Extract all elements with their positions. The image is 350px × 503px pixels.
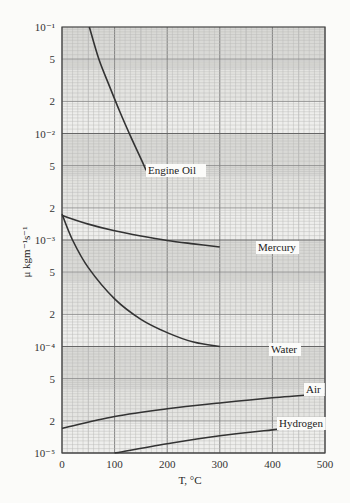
svg-text:Engine Oil: Engine Oil bbox=[148, 164, 196, 176]
y-tick-label: 5 bbox=[50, 266, 56, 278]
x-tick-label: 500 bbox=[317, 458, 334, 470]
svg-text:Water: Water bbox=[271, 343, 297, 355]
x-axis-ticks: 0100200300400500 bbox=[59, 458, 334, 470]
y-tick-label: 2 bbox=[50, 308, 56, 320]
y-axis-label: μ kgm⁻¹s⁻¹ bbox=[20, 226, 32, 277]
y-tick-label: 5 bbox=[50, 53, 56, 65]
y-tick-label: 10⁻⁴ bbox=[34, 341, 55, 353]
label-engine-oil: Engine Oil bbox=[146, 164, 206, 177]
label-mercury: Mercury bbox=[256, 241, 299, 254]
svg-text:Hydrogen: Hydrogen bbox=[279, 417, 323, 429]
y-tick-label: 2 bbox=[50, 415, 56, 427]
label-air: Air bbox=[304, 383, 325, 396]
x-tick-label: 300 bbox=[212, 458, 229, 470]
y-axis-ticks: 10⁻¹5210⁻²5210⁻³5210⁻⁴5210⁻⁵ bbox=[34, 21, 56, 459]
x-tick-label: 200 bbox=[159, 458, 176, 470]
label-hydrogen: Hydrogen bbox=[277, 417, 326, 430]
viscosity-chart: 10⁻¹5210⁻²5210⁻³5210⁻⁴5210⁻⁵ 01002003004… bbox=[0, 0, 350, 503]
svg-text:Mercury: Mercury bbox=[258, 241, 296, 253]
x-tick-label: 400 bbox=[264, 458, 281, 470]
x-axis-label: T, °C bbox=[178, 474, 201, 486]
y-tick-label: 5 bbox=[50, 160, 56, 172]
y-tick-label: 10⁻² bbox=[35, 128, 56, 140]
y-tick-label: 10⁻⁵ bbox=[34, 447, 55, 459]
label-water: Water bbox=[269, 343, 301, 356]
x-tick-label: 0 bbox=[59, 458, 65, 470]
y-tick-label: 10⁻³ bbox=[35, 234, 56, 246]
y-tick-label: 5 bbox=[50, 373, 56, 385]
y-tick-label: 2 bbox=[50, 202, 56, 214]
y-tick-label: 10⁻¹ bbox=[35, 21, 55, 33]
svg-text:Air: Air bbox=[306, 383, 321, 395]
y-tick-label: 2 bbox=[50, 95, 56, 107]
x-tick-label: 100 bbox=[106, 458, 123, 470]
